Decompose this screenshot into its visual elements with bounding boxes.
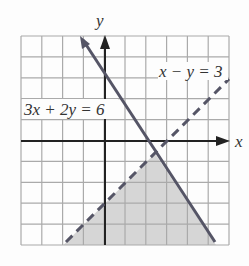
shaded-solution-region: [63, 154, 216, 246]
x-axis-label: x: [234, 132, 243, 151]
dashed-line-label: x − y = 3: [158, 62, 223, 81]
y-axis-label: y: [94, 11, 104, 30]
graph: x y 3x + 2y = 6 x − y = 3: [0, 0, 249, 266]
x-axis-arrow-icon: [216, 136, 230, 146]
solid-line-label: 3x + 2y = 6: [23, 100, 105, 119]
y-axis-arrow-icon: [100, 35, 110, 49]
